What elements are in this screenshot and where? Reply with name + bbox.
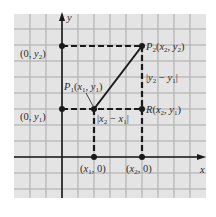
- point-x2-0: [139, 154, 145, 160]
- point-0-y2: [59, 43, 65, 49]
- point-r: [139, 106, 145, 112]
- point-p2: [139, 43, 145, 49]
- point-0-y1: [59, 106, 65, 112]
- distance-diagram: y x (0, y2) (0, y1) (x1, 0) (x2, 0) P2(x…: [0, 0, 216, 217]
- x-axis-label: x: [199, 164, 205, 175]
- point-p1: [91, 106, 97, 112]
- y-axis-label: y: [66, 12, 72, 23]
- point-x1-0: [91, 154, 97, 160]
